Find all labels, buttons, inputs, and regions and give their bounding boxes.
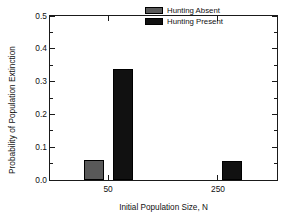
plot-area: 0.00.10.20.30.40.550250 [49, 15, 278, 181]
y-axis-tick-major: 0.5 [50, 16, 55, 17]
y-axis-tick-major: 0.2 [50, 114, 55, 115]
x-axis-title: Initial Population Size, N [49, 203, 278, 212]
y-axis-title: Probability of Population Extinction [6, 25, 20, 195]
y-axis-tick-major-right [272, 114, 277, 115]
x-axis-tick-label: 250 [211, 184, 225, 194]
y-axis-tick-minor-right [274, 130, 277, 131]
y-axis-tick-major: 0.4 [50, 48, 55, 49]
y-axis-tick-minor [50, 65, 53, 66]
y-axis-tick-label: 0.0 [35, 175, 47, 185]
y-axis-tick-major: 0.0 [50, 180, 55, 181]
y-axis-tick-major: 0.3 [50, 81, 55, 82]
legend-label-hunting-present: Hunting Present [167, 17, 223, 26]
legend-item-hunting-absent: Hunting Absent [145, 6, 223, 15]
y-axis-tick-major-right [272, 147, 277, 148]
y-axis-tick-minor [50, 98, 53, 99]
bar-chart-figure: Probability of Population Extinction 0.0… [0, 0, 292, 224]
bar [113, 69, 133, 180]
legend-label-hunting-absent: Hunting Absent [167, 6, 220, 15]
y-axis-tick-minor-right [274, 32, 277, 33]
y-axis-tick-label: 0.3 [35, 76, 47, 86]
x-axis-tick [217, 175, 218, 180]
legend-item-hunting-present: Hunting Present [145, 17, 223, 26]
y-axis-tick-minor-right [274, 98, 277, 99]
y-axis-tick-minor [50, 32, 53, 33]
chart-legend: Hunting Absent Hunting Present [145, 6, 223, 26]
bar [84, 160, 104, 180]
x-axis-tick-top [108, 16, 109, 21]
legend-swatch-hunting-absent [145, 7, 163, 14]
y-axis-tick-minor [50, 163, 53, 164]
y-axis-tick-minor [50, 130, 53, 131]
x-axis-tick-label: 50 [103, 184, 112, 194]
y-axis-tick-label: 0.1 [35, 142, 47, 152]
y-axis-tick-minor-right [274, 163, 277, 164]
y-axis-tick-label: 0.4 [35, 43, 47, 53]
y-axis-tick-label: 0.5 [35, 11, 47, 21]
y-axis-tick-major-right [272, 81, 277, 82]
y-axis-tick-minor-right [274, 65, 277, 66]
legend-swatch-hunting-present [145, 18, 163, 25]
x-axis-tick [108, 175, 109, 180]
y-axis-tick-major: 0.1 [50, 147, 55, 148]
y-axis-tick-label: 0.2 [35, 109, 47, 119]
y-axis-tick-major-right [272, 180, 277, 181]
bar [222, 161, 242, 180]
y-axis-tick-major-right [272, 48, 277, 49]
y-axis-tick-major-right [272, 16, 277, 17]
